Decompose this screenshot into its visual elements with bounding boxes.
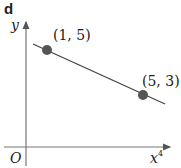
x-axis-label: x	[150, 150, 158, 166]
panel-label: d	[4, 0, 13, 17]
point-label-1: (1, 5)	[53, 27, 91, 43]
point-label-2: (5, 3)	[142, 73, 180, 89]
x-axis-label-sup: 4	[158, 149, 163, 158]
y-axis-label: y	[10, 17, 20, 33]
diagram: d y x 4 O (1, 5) (5, 3)	[0, 0, 181, 168]
origin-label: O	[10, 150, 22, 166]
point-5-3	[138, 90, 148, 100]
point-1-5	[42, 45, 52, 55]
